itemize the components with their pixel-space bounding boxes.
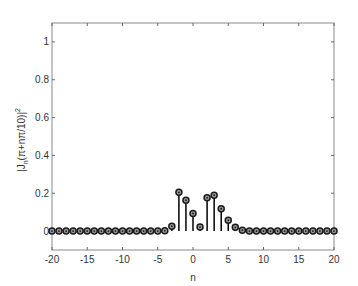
stem-marker-dot <box>136 230 138 232</box>
stem-marker-dot <box>58 230 60 232</box>
stem-marker-dot <box>256 230 258 232</box>
stem-marker-dot <box>333 230 335 232</box>
x-tick-label: -10 <box>115 254 130 265</box>
stem-plot: -20-15-10-505101520 00.20.40.60.81 n |Jn… <box>0 0 358 286</box>
stem-marker-dot <box>72 230 74 232</box>
stem-marker-dot <box>312 230 314 232</box>
x-axis-label: n <box>190 272 196 283</box>
stem-marker-dot <box>100 230 102 232</box>
x-tick-label: 10 <box>258 254 270 265</box>
x-tick-label: -5 <box>153 254 162 265</box>
x-tick-label: 20 <box>328 254 340 265</box>
stem-marker-dot <box>305 230 307 232</box>
y-tick-label: 1 <box>43 36 49 47</box>
stem-marker-dot <box>164 230 166 232</box>
x-tick-label: 15 <box>293 254 305 265</box>
stem-marker-dot <box>284 230 286 232</box>
stem-marker-dot <box>65 230 67 232</box>
stem-marker-dot <box>249 230 251 232</box>
stem-marker-dot <box>291 230 293 232</box>
stem-marker-dot <box>79 230 81 232</box>
stem-marker-dot <box>178 191 180 193</box>
stem-marker-dot <box>93 230 95 232</box>
stem-marker-dot <box>234 226 236 228</box>
stem-marker-dot <box>270 230 272 232</box>
stem-marker-dot <box>241 229 243 231</box>
stem-marker-dot <box>150 230 152 232</box>
stem-marker-dot <box>86 230 88 232</box>
x-tick-label: 5 <box>225 254 231 265</box>
stem-marker-dot <box>319 230 321 232</box>
stem-marker-dot <box>227 219 229 221</box>
stem-marker-dot <box>51 230 53 232</box>
stem-marker-dot <box>263 230 265 232</box>
x-tick-label: -20 <box>45 254 60 265</box>
stem-marker-dot <box>206 197 208 199</box>
stem-marker-dot <box>129 230 131 232</box>
stem-marker-dot <box>277 230 279 232</box>
y-tick-label: 0.8 <box>35 74 49 85</box>
x-tick-label: -15 <box>80 254 95 265</box>
y-axis-label: |Jn(π+nπ/10)|2 <box>14 108 29 172</box>
stem-marker-dot <box>220 208 222 210</box>
stem-marker-dot <box>298 230 300 232</box>
x-tick-label: 0 <box>190 254 196 265</box>
stem-marker-dot <box>199 226 201 228</box>
y-tick-label: 0.4 <box>35 150 49 161</box>
stem-marker-dot <box>143 230 145 232</box>
y-tick-label: 0.6 <box>35 112 49 123</box>
figure: -20-15-10-505101520 00.20.40.60.81 n |Jn… <box>0 0 358 286</box>
stem-marker-dot <box>192 213 194 215</box>
stem-marker-dot <box>115 230 117 232</box>
stem-marker-dot <box>185 199 187 201</box>
stem-marker-dot <box>213 194 215 196</box>
stem-marker-dot <box>171 225 173 227</box>
stem-marker-dot <box>326 230 328 232</box>
stem-marker-dot <box>122 230 124 232</box>
stem-marker-dot <box>157 230 159 232</box>
stem-marker-dot <box>108 230 110 232</box>
y-tick-label: 0.2 <box>35 188 49 199</box>
